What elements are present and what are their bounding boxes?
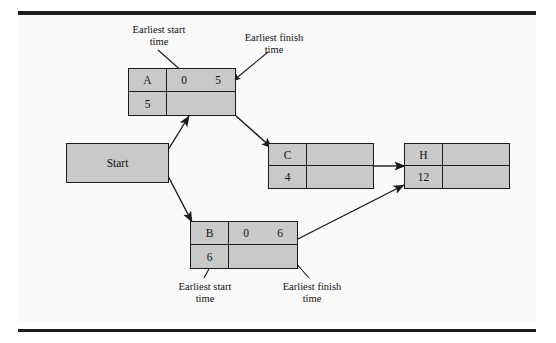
node-b-label: B xyxy=(191,222,229,244)
edge-start-b xyxy=(168,176,192,222)
edge-a-c xyxy=(236,116,272,148)
node-a-duration: 5 xyxy=(129,92,167,115)
node-b-duration: 6 xyxy=(191,245,229,268)
node-c-latest-cell xyxy=(307,166,373,188)
leader-top-right xyxy=(233,52,268,81)
node-c[interactable]: C 4 xyxy=(268,143,374,189)
node-h-label: H xyxy=(405,144,443,165)
node-h[interactable]: H 12 xyxy=(404,143,510,189)
node-b-earliest-finish: 6 xyxy=(263,227,297,239)
node-c-label: C xyxy=(269,144,307,165)
figure-container: Start A 0 5 5 C xyxy=(0,0,556,343)
node-b-latest-cell xyxy=(229,245,297,268)
node-b[interactable]: B 0 6 6 xyxy=(190,221,298,269)
annotation-earliest-finish-bottom: Earliest finish time xyxy=(256,281,368,305)
node-a-label: A xyxy=(129,69,167,91)
annotation-earliest-finish-top: Earliest finish time xyxy=(218,32,330,56)
node-c-duration: 4 xyxy=(269,166,307,188)
node-h-duration: 12 xyxy=(405,166,443,188)
node-a-latest-cell xyxy=(167,92,235,115)
annotation-earliest-start-top: Earliest start time xyxy=(104,24,214,48)
annotation-earliest-start-bottom: Earliest start time xyxy=(150,281,260,305)
node-a-earliest-finish: 5 xyxy=(201,74,235,86)
edge-start-a xyxy=(168,116,189,150)
node-start-label: Start xyxy=(107,157,129,169)
node-start[interactable]: Start xyxy=(66,143,169,183)
node-a-earliest-start: 0 xyxy=(167,74,201,86)
node-b-earliest-start: 0 xyxy=(229,227,263,239)
node-h-latest-cell xyxy=(443,166,509,188)
node-a[interactable]: A 0 5 5 xyxy=(128,68,236,116)
edge-b-h xyxy=(290,185,404,243)
